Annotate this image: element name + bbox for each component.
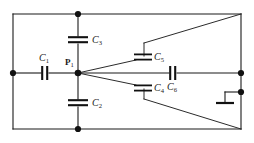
wire-c5-to-top-right (144, 14, 241, 43)
schematic-canvas (0, 0, 254, 143)
ground-symbol-group (216, 92, 241, 103)
label-c4: C4 (154, 83, 164, 93)
dot-right-mid (238, 70, 244, 76)
capacitor-c5-symbol (134, 54, 152, 59)
wire-p1-to-c5 (78, 60, 136, 73)
capacitor-c2-symbol (68, 100, 88, 105)
circuit-diagram: C1 C2 C3 C4 C5 C6 P1 (0, 0, 254, 143)
wire-p1-to-c4 (78, 73, 136, 85)
label-c6: C6 (167, 82, 177, 92)
dot-right-ground (238, 89, 244, 95)
capacitor-c6-symbol (170, 66, 175, 80)
label-c5: C5 (154, 52, 164, 62)
dot-left-edge (10, 70, 16, 76)
label-c2: C2 (92, 98, 102, 108)
label-c1: C1 (39, 53, 49, 63)
capacitor-c1-symbol (42, 66, 47, 80)
label-c3: C3 (92, 35, 102, 45)
capacitor-c3-symbol (68, 37, 88, 42)
capacitor-c4-symbol (134, 85, 152, 90)
upper-diagonal-branch-wires (78, 14, 241, 73)
label-p1: P1 (65, 58, 74, 67)
dot-p1-junction (75, 70, 82, 77)
dot-top-edge (75, 11, 81, 17)
junction-dots (10, 11, 244, 132)
dot-bottom-edge (75, 126, 81, 132)
